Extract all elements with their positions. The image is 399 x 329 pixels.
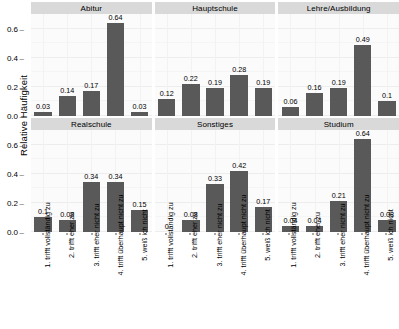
bar-value-label: 0.16: [308, 83, 322, 92]
x-tick-label: 3. trifft eher nicht zu: [92, 204, 101, 267]
x-tick: 2. trifft eher zu: [301, 233, 325, 328]
bar-value-label: 0.34: [84, 172, 98, 181]
bar-slot: 0.14: [55, 14, 79, 116]
x-axis-labels-panel-sonstiges: 1. trifft vollständig zu2. trifft eher z…: [154, 233, 275, 328]
bar: [206, 88, 223, 116]
x-tick-label: 1. trifft vollständig zu: [166, 202, 175, 267]
y-tick-label: 0.6–: [7, 24, 24, 33]
x-tick: 4. trifft überhaupt nicht zu: [227, 233, 251, 328]
y-tick-label: 0.0–: [7, 228, 24, 237]
bar: [354, 45, 371, 116]
x-tick-label: 4. trifft überhaupt nicht zu: [362, 195, 371, 276]
bar-value-label: 0.64: [356, 130, 370, 138]
x-tick: 5. weiß ich nicht: [128, 233, 152, 328]
bar-slot: 0.1: [375, 14, 399, 116]
bar-value-label: 0.33: [208, 174, 222, 183]
bar: [107, 23, 124, 116]
bar-slot: 0.03: [31, 14, 55, 116]
panel-strip-title: Hauptschule: [155, 2, 276, 14]
x-axis-labels-panel-studium: 1. trifft vollständig zu2. trifft eher z…: [277, 233, 398, 328]
x-tick: 4. trifft überhaupt nicht zu: [350, 233, 374, 328]
bar-slot: 0.06: [278, 14, 302, 116]
x-tick-label: 3. trifft eher nicht zu: [215, 204, 224, 267]
bar-value-label: 0.19: [208, 78, 222, 87]
x-tick-label: 5. weiß ich nicht: [140, 209, 149, 261]
bar-value-label: 0.06: [283, 97, 297, 106]
y-tick-label: 0.2–: [7, 198, 24, 207]
bar-value-label: 0.21: [332, 191, 346, 200]
x-tick-label: 5. weiß ich nicht: [263, 209, 272, 261]
bar-slot: 0.19: [251, 14, 275, 116]
x-tick-label: 1. trifft vollständig zu: [43, 202, 52, 267]
bar-value-label: 0.17: [84, 81, 98, 90]
y-axis-ticks-row-1: 0.0–0.2–0.4–0.6–: [0, 14, 24, 116]
x-tick-label: 2. trifft eher zu: [67, 212, 76, 258]
x-tick: 2. trifft eher zu: [178, 233, 202, 328]
x-tick: 4. trifft überhaupt nicht zu: [104, 233, 128, 328]
bar-value-label: 0.17: [256, 197, 270, 206]
x-tick: 5. weiß ich nicht: [251, 233, 275, 328]
bar-slot: 0.22: [179, 14, 203, 116]
x-tick: 3. trifft eher nicht zu: [79, 233, 103, 328]
x-tick: 3. trifft eher nicht zu: [202, 233, 226, 328]
bar-slot: 0.28: [227, 14, 251, 116]
y-tick-label: 0.6–: [7, 140, 24, 149]
bar: [255, 88, 272, 116]
bar-slot: 0.49: [351, 14, 375, 116]
x-tick-label: 1. trifft vollständig zu: [289, 202, 298, 267]
bar-value-label: 0.03: [36, 102, 50, 111]
bar-value-label: 0.12: [160, 89, 174, 98]
panel-grid: Abitur0.030.140.170.640.03Hauptschule0.1…: [31, 2, 399, 232]
bar-value-label: 0.34: [108, 172, 122, 181]
plot-area: 0.060.160.190.490.1: [278, 14, 399, 116]
bar-slot: 0.03: [128, 14, 152, 116]
bar-slot: 0.64: [103, 14, 127, 116]
x-tick-label: 4. trifft überhaupt nicht zu: [116, 195, 125, 276]
bar: [59, 96, 76, 116]
panel-lehre-ausbildung: Lehre/Ausbildung0.060.160.190.490.1: [278, 2, 399, 116]
x-tick-label: 2. trifft eher zu: [190, 212, 199, 258]
bar: [131, 112, 148, 116]
bar: [330, 88, 347, 116]
x-axis-labels-panel-realschule: 1. trifft vollständig zu2. trifft eher z…: [31, 233, 152, 328]
y-tick-label: 0.4–: [7, 169, 24, 178]
x-tick: 1. trifft vollständig zu: [31, 233, 55, 328]
x-tick: 5. weiß ich nicht: [374, 233, 398, 328]
x-tick: 3. trifft eher nicht zu: [325, 233, 349, 328]
panel-hauptschule: Hauptschule0.120.220.190.280.19: [155, 2, 276, 116]
bar-slot: 0.19: [203, 14, 227, 116]
bar-value-label: 0.19: [256, 78, 270, 87]
bar-slot: 0.19: [327, 14, 351, 116]
bar-slot: 0.16: [302, 14, 326, 116]
x-tick: 1. trifft vollständig zu: [277, 233, 301, 328]
bar-value-label: 0.42: [232, 161, 246, 170]
bar-series: 0.060.160.190.490.1: [278, 14, 399, 116]
y-tick-label: 0.2–: [7, 82, 24, 91]
bar-value-label: 0.19: [332, 78, 346, 87]
bar: [282, 107, 299, 116]
bar-slot: 0.17: [79, 14, 103, 116]
x-tick: 1. trifft vollständig zu: [154, 233, 178, 328]
bar: [34, 112, 51, 116]
bar: [306, 93, 323, 116]
y-axis-ticks-row-2: 0.0–0.2–0.4–0.6–: [0, 130, 24, 232]
panel-strip-title: Sonstiges: [155, 118, 276, 130]
bar: [158, 99, 175, 116]
plot-area: 0.030.140.170.640.03: [31, 14, 152, 116]
x-tick-label: 4. trifft überhaupt nicht zu: [239, 195, 248, 276]
panel-strip-title: Realschule: [31, 118, 152, 130]
x-tick: 2. trifft eher zu: [55, 233, 79, 328]
y-tick-label: 0.0–: [7, 112, 24, 121]
bar: [83, 91, 100, 116]
panel-strip-title: Studium: [278, 118, 399, 130]
bar-value-label: 0.22: [184, 74, 198, 83]
bar-value-label: 0.1: [382, 91, 392, 100]
x-tick-label: 2. trifft eher zu: [313, 212, 322, 258]
panel-strip-title: Lehre/Ausbildung: [278, 2, 399, 14]
bar-value-label: 0.14: [60, 86, 74, 95]
panel-strip-title: Abitur: [31, 2, 152, 14]
bar-value-label: 0.64: [108, 14, 122, 22]
y-tick-label: 0.4–: [7, 53, 24, 62]
bar: [230, 75, 247, 116]
bar-series: 0.120.220.190.280.19: [155, 14, 276, 116]
